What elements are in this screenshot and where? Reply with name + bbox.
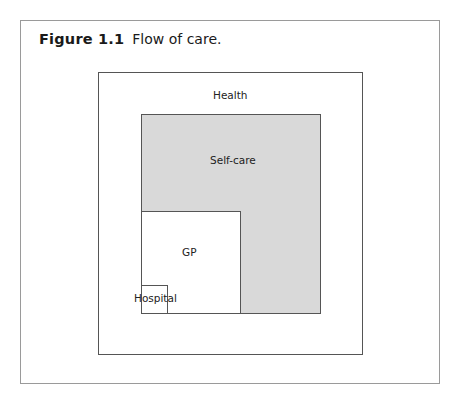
- health-label: Health: [213, 89, 247, 101]
- gp-label: GP: [182, 246, 196, 258]
- figure-label: Figure 1.1: [39, 31, 124, 47]
- figure-caption: Figure 1.1Flow of care.: [39, 31, 221, 47]
- self-care-label: Self-care: [210, 154, 256, 166]
- hospital-label: Hospital: [134, 292, 177, 304]
- figure-caption-text: Flow of care.: [132, 31, 221, 47]
